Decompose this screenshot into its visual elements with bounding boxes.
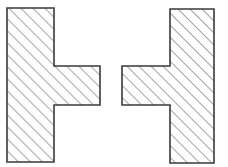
left-t-section <box>7 8 100 162</box>
diagram-canvas <box>0 0 228 167</box>
right-t-section <box>122 9 214 163</box>
